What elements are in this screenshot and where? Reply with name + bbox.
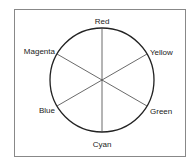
label-green: Green — [150, 107, 172, 116]
label-blue: Blue — [39, 106, 56, 115]
label-red: Red — [95, 17, 110, 26]
color-wheel-diagram: Red Yellow Green Cyan Blue Magenta — [0, 0, 193, 167]
label-yellow: Yellow — [150, 48, 173, 57]
label-cyan: Cyan — [93, 140, 112, 149]
frame-border — [15, 10, 186, 157]
label-magenta: Magenta — [24, 47, 56, 56]
